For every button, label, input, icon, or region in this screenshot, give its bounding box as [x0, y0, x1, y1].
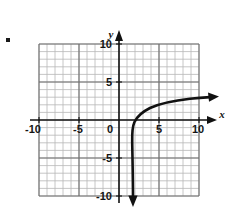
x-axis-arrow [207, 116, 217, 124]
curve-right-arrow [208, 93, 219, 102]
y-tick-label-neg5: -5 [102, 152, 112, 164]
x-tick-label-5: 5 [156, 123, 162, 135]
y-axis-arrow [115, 30, 123, 41]
coordinate-plane-graph: -10 -5 0 5 10 10 5 -5 -10 y x [0, 0, 233, 210]
y-tick-label-neg10: -10 [96, 190, 112, 202]
y-axis-label: y [107, 28, 114, 40]
y-axis [115, 30, 123, 203]
figure-canvas: -10 -5 0 5 10 10 5 -5 -10 y x [0, 0, 233, 210]
x-tick-label-0: 0 [107, 123, 113, 135]
x-tick-label-10: 10 [192, 123, 204, 135]
y-tick-label-5: 5 [106, 76, 112, 88]
x-axis [30, 116, 217, 124]
function-curve [128, 93, 219, 207]
x-tick-label-neg10: -10 [25, 123, 41, 135]
bullet-marker [6, 38, 10, 42]
curve-down-arrow [128, 196, 137, 207]
axes [30, 30, 217, 203]
x-tick-label-neg5: -5 [73, 123, 83, 135]
x-axis-label: x [218, 108, 225, 120]
